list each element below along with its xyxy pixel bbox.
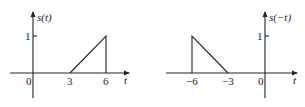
x-axis-label: t: [293, 74, 297, 86]
signal-curve: [70, 36, 106, 73]
y-tick-label: 1: [257, 30, 263, 42]
plot-s-t: s(t) 1 0 3 6 t: [10, 11, 129, 98]
plot-s-neg-t: s(−t) 1 0 −6 −3 t: [166, 11, 297, 98]
y-axis-label: s(−t): [269, 11, 291, 24]
x-tick-label-6: 6: [103, 75, 109, 87]
signal-curve: [192, 36, 228, 73]
origin-label: 0: [258, 75, 264, 87]
x-axis-label: t: [124, 74, 128, 86]
x-tick-label-3: 3: [67, 75, 73, 87]
y-tick-label: 1: [25, 30, 31, 42]
x-tick-label-neg3: −3: [222, 75, 234, 87]
diagram-canvas: s(t) 1 0 3 6 t s(−t) 1 0 −6 −3 t: [0, 0, 305, 107]
y-axis-label: s(t): [37, 11, 52, 24]
origin-label: 0: [26, 75, 32, 87]
x-tick-label-neg6: −6: [186, 75, 198, 87]
